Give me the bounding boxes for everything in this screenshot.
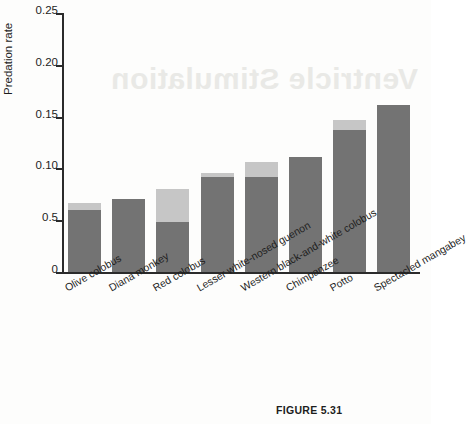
y-axis-title: Predation rate	[2, 23, 14, 95]
bar[interactable]	[68, 203, 101, 272]
y-axis-tick-label: 0	[52, 264, 58, 276]
x-axis-line	[62, 272, 420, 274]
figure-caption: FIGURE 5.31	[276, 404, 342, 416]
bar-segment-upper	[68, 203, 101, 210]
y-axis-tick-label: 0.20	[36, 57, 58, 69]
plot-area: 00.50.100.150.200.25	[62, 13, 420, 272]
bar[interactable]	[201, 173, 234, 272]
y-axis-tick: 0	[62, 272, 63, 273]
bar-segment-lower	[377, 105, 410, 272]
bar-segment-lower	[201, 177, 234, 272]
bar-segment-upper	[201, 173, 234, 177]
bar-segment-upper	[156, 189, 189, 222]
x-axis-category-label[interactable]: Potto	[328, 272, 354, 293]
y-axis-tick-label: 0.5	[42, 212, 58, 224]
bar-group	[62, 13, 420, 272]
bar[interactable]	[333, 120, 366, 272]
y-axis-tick-label: 0.15	[36, 109, 58, 121]
bar-segment-upper	[333, 120, 366, 130]
y-axis-tick-label: 0.25	[36, 5, 58, 17]
bar[interactable]	[377, 105, 410, 272]
y-axis-tick-label: 0.10	[36, 160, 58, 172]
bar-segment-lower	[333, 130, 366, 272]
bar-segment-upper	[245, 162, 278, 177]
